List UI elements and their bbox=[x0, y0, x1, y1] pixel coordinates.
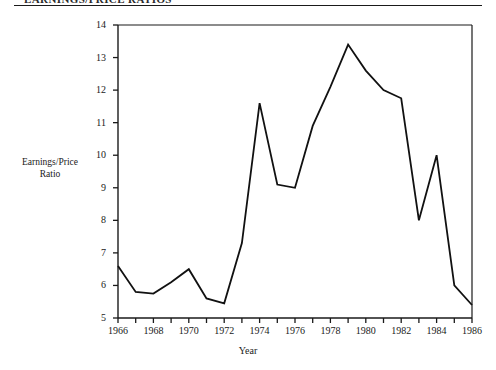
x-axis-tick-label: 1968 bbox=[133, 326, 173, 336]
x-axis-tick-label: 1976 bbox=[275, 326, 315, 336]
x-axis-tick-label: 1980 bbox=[346, 326, 386, 336]
plot-frame bbox=[118, 25, 472, 318]
y-axis-tick-label: 11 bbox=[84, 118, 106, 128]
x-axis-tick-label: 1974 bbox=[240, 326, 280, 336]
x-axis-tick-label: 1966 bbox=[98, 326, 138, 336]
y-axis-tick-label: 12 bbox=[84, 85, 106, 95]
y-axis-tick-label: 10 bbox=[84, 150, 106, 160]
x-axis-tick-label: 1972 bbox=[204, 326, 244, 336]
x-axis-tick-label: 1978 bbox=[310, 326, 350, 336]
chart-plot-area bbox=[0, 0, 496, 370]
y-axis-tick-label: 14 bbox=[84, 20, 106, 30]
y-axis-tick-label: 7 bbox=[84, 248, 106, 258]
x-axis-tick-label: 1970 bbox=[169, 326, 209, 336]
figure-root: EARNINGS/PRICE RATIOS Earnings/Price Rat… bbox=[0, 0, 496, 370]
x-axis-tick-label: 1986 bbox=[452, 326, 492, 336]
y-axis-tick-label: 13 bbox=[84, 53, 106, 63]
y-axis-tick-label: 8 bbox=[84, 215, 106, 225]
x-axis-ticks bbox=[118, 318, 472, 323]
data-series-line bbox=[118, 45, 472, 305]
x-axis-tick-label: 1984 bbox=[417, 326, 457, 336]
y-axis-ticks bbox=[113, 25, 118, 318]
y-axis-tick-label: 5 bbox=[84, 313, 106, 323]
x-axis-tick-label: 1982 bbox=[381, 326, 421, 336]
y-axis-tick-label: 9 bbox=[84, 183, 106, 193]
y-axis-tick-label: 6 bbox=[84, 280, 106, 290]
